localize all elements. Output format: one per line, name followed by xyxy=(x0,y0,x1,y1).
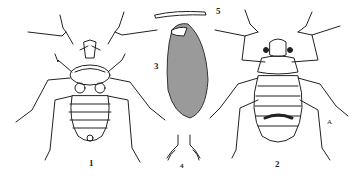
egg-drawing xyxy=(167,24,208,118)
label-2: 2 xyxy=(275,160,280,169)
label-3: 3 xyxy=(154,62,159,71)
label-4: 4 xyxy=(180,163,184,170)
label-1: 1 xyxy=(89,159,94,168)
figure-drawing xyxy=(0,0,359,179)
specimen-1-drawing xyxy=(16,12,165,162)
item-4-drawing xyxy=(167,135,200,160)
annotation-letter-a: A xyxy=(327,119,332,126)
specimen-2-drawing xyxy=(210,10,348,160)
item-5-drawing xyxy=(155,11,206,18)
scientific-figure: 1 2 3 4 5 A xyxy=(0,0,359,179)
label-5: 5 xyxy=(216,7,221,16)
